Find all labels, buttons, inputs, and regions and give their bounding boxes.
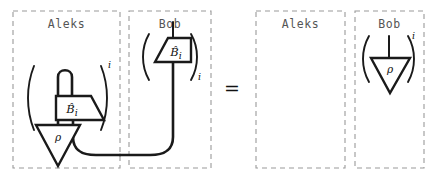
lhs-aleks-gate-subscript: i [75,107,78,118]
lhs-bob-group: Bob i B̂i [120,11,211,168]
rhs-bob-superscript-i: i [412,30,415,41]
lhs-aleks-group: Aleks i B̂i ρ [13,11,120,168]
lhs-aleks-gate-bhat [56,96,104,120]
rhs-bob-rho-label: ρ [386,63,394,75]
lhs-bob-party-label: Bob [159,17,182,31]
lhs-aleks-rho-label: ρ [54,131,62,143]
lhs-aleks-superscript-i: i [108,59,111,70]
lhs-aleks-open-paren [28,66,34,130]
string-diagram-figure: Aleks i B̂i ρ Bob i [0,0,435,178]
lhs-bob-gate-subscript: i [179,50,182,61]
lhs-bob-frame [129,11,211,168]
rhs-bob-party-label: Bob [378,17,401,31]
lhs-aleks-party-label: Aleks [48,17,86,31]
rhs-bob-open-paren [363,36,369,82]
equals-sign: = [224,77,240,99]
rhs-aleks-frame [256,11,345,168]
rhs-bob-group: Bob i ρ [355,11,424,168]
rhs-aleks-party-label: Aleks [282,17,320,31]
lhs-bob-open-paren [143,34,149,80]
lhs-bob-superscript-i: i [198,71,201,82]
rhs-aleks-group: Aleks [256,11,345,168]
diagram-canvas: Aleks i B̂i ρ Bob i [0,0,435,178]
